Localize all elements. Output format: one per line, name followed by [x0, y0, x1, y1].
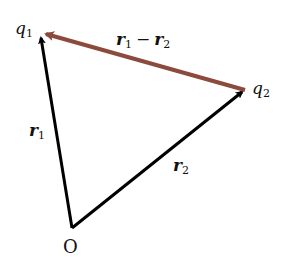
point-q2-label: q2: [252, 80, 270, 99]
origin-label: O: [63, 238, 78, 256]
vector-r1-minus-r2-label: r1−r2: [116, 31, 170, 50]
point-q1-label: q1: [15, 20, 33, 39]
vector-r1-label: r1: [29, 122, 45, 141]
vector-diagram: q1 q2 O r1 r2 r1−r2: [0, 0, 293, 271]
vector-r2-label: r2: [173, 157, 189, 176]
vector-r1-arrow: [41, 38, 72, 228]
vector-r2-arrow: [72, 92, 242, 228]
